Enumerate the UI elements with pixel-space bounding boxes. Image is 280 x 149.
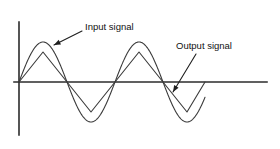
waveform-svg: Input signal Output signal [0, 0, 280, 149]
waveform-figure: Input signal Output signal [0, 0, 280, 149]
input-signal-arrowhead [54, 40, 61, 45]
output-signal-label: Output signal [176, 40, 232, 51]
input-signal-annotation: Input signal [54, 21, 134, 45]
output-signal-annotation: Output signal [173, 40, 232, 92]
output-signal-arrowhead [173, 85, 179, 92]
output-signal-leader-line [173, 54, 196, 92]
input-signal-label: Input signal [85, 21, 134, 32]
